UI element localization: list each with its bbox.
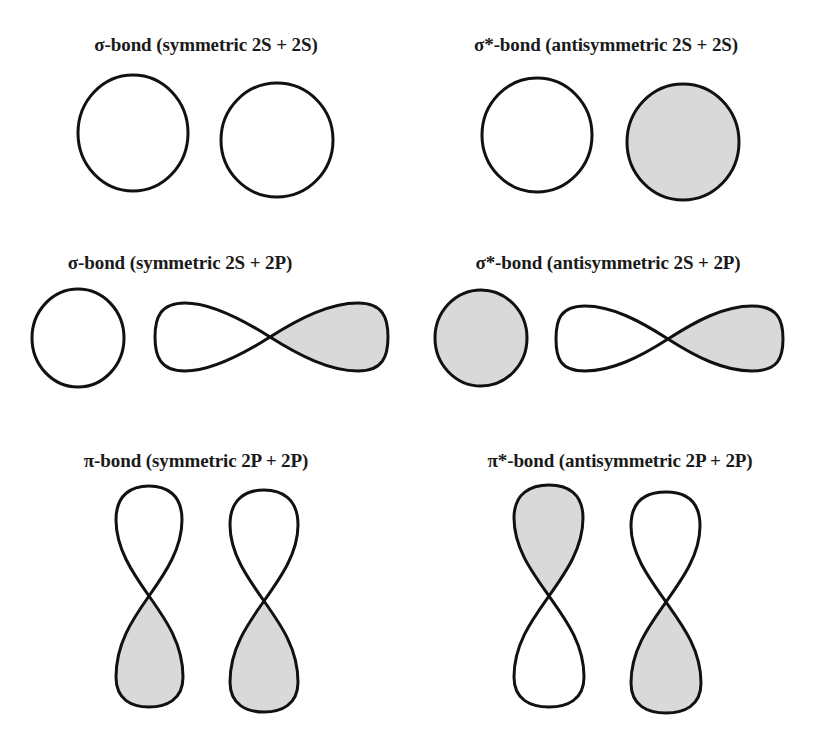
p-lobe-left-unshaded [556,306,668,371]
p-lobe-bottom-shaded [230,601,298,712]
p-lobe-top-unshaded [631,492,700,602]
p-lobe-bottom-shaded [116,596,183,707]
p-lobe-top-unshaded [230,490,298,601]
orbital-diagram [0,0,813,740]
p-lobe-top-unshaded [116,486,182,596]
panel-pi-2p-2p [116,486,298,712]
p-lobe-bottom-shaded [631,602,701,713]
s-orbital-shaded [627,84,739,200]
s-orbital-unshaded [32,289,124,387]
panel-sigma-2s-2p [32,289,388,387]
s-orbital-unshaded [78,75,188,191]
p-lobe-top-shaded [514,485,583,596]
s-orbital-unshaded [482,78,592,192]
p-lobe-bottom-unshaded [514,596,584,707]
p-lobe-right-shaded [668,306,783,371]
p-lobe-left-unshaded [155,303,270,371]
p-lobe-right-shaded [270,303,388,371]
panel-sigma-star-2s-2s [482,78,739,200]
panel-pi-star-2p-2p [514,485,701,713]
panel-sigma-2s-2s [78,75,333,197]
s-orbital-shaded [435,290,527,386]
panel-sigma-star-2s-2p [435,290,783,386]
s-orbital-unshaded [221,83,333,197]
